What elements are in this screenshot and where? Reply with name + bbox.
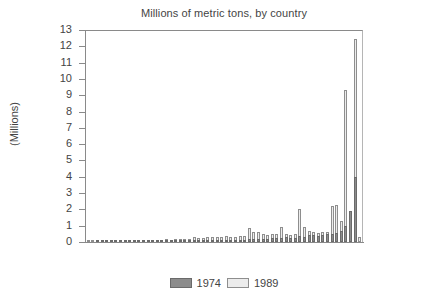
bar-1974 xyxy=(354,177,357,242)
bar-1974 xyxy=(344,226,347,242)
bar-group xyxy=(357,31,362,242)
bar-1974 xyxy=(220,240,223,242)
bar-series-container xyxy=(86,31,362,242)
y-axis-tick: 13 xyxy=(0,30,85,31)
bar-1974 xyxy=(206,240,209,242)
bar-1974 xyxy=(110,240,113,242)
y-axis-tick-label: 9 xyxy=(66,88,72,101)
bar-1974 xyxy=(340,231,343,242)
bar-1974 xyxy=(193,240,196,242)
y-axis-tick: 1 xyxy=(0,226,85,227)
bar-1974 xyxy=(326,234,329,242)
bar-1974 xyxy=(225,240,228,242)
bar-1974 xyxy=(271,238,274,242)
bar-1974 xyxy=(294,238,297,242)
y-axis-tick-label: 13 xyxy=(60,23,72,36)
bar-1974 xyxy=(105,240,108,242)
y-axis-tick: 0 xyxy=(0,242,85,243)
y-axis-label: (Millions) xyxy=(8,74,20,174)
bar-1974 xyxy=(308,235,311,242)
bar-1974 xyxy=(303,237,306,242)
bar-1974 xyxy=(165,240,168,242)
y-axis-tick: 3 xyxy=(0,193,85,194)
bar-1974 xyxy=(142,240,145,242)
y-axis-tick: 4 xyxy=(0,177,85,178)
bar-1974 xyxy=(101,240,104,242)
bar-1974 xyxy=(257,239,260,242)
bar-1974 xyxy=(156,240,159,242)
bar-1989 xyxy=(87,240,90,242)
bar-1974 xyxy=(147,240,150,242)
bar-1974 xyxy=(183,240,186,242)
y-axis-tick-label: 4 xyxy=(66,170,72,183)
y-axis-tick: 6 xyxy=(0,144,85,145)
bar-1974 xyxy=(202,240,205,242)
bar-1974 xyxy=(114,240,117,242)
legend-entry-1989: 1989 xyxy=(227,277,278,289)
chart-legend: 1974 1989 xyxy=(85,277,363,289)
y-axis-tick-label: 2 xyxy=(66,202,72,215)
bar-1974 xyxy=(262,239,265,242)
bar-1974 xyxy=(124,240,127,242)
bar-1974 xyxy=(275,238,278,242)
legend-entry-1974: 1974 xyxy=(170,277,221,289)
chart-title: Millions of metric tons, by country xyxy=(85,7,363,19)
bar-1974 xyxy=(216,240,219,242)
y-axis-tick: 11 xyxy=(0,63,85,64)
bar-1974 xyxy=(188,240,191,242)
y-axis-tick-label: 12 xyxy=(60,39,72,52)
y-axis-tick: 8 xyxy=(0,112,85,113)
legend-swatch-1989 xyxy=(227,278,249,288)
bar-1974 xyxy=(234,240,237,242)
bar-1974 xyxy=(211,240,214,242)
bar-1974 xyxy=(133,240,136,242)
y-axis-tick-label: 8 xyxy=(66,105,72,118)
y-axis-tick-label: 11 xyxy=(61,56,72,69)
x-axis-line xyxy=(85,242,364,243)
bar-1974 xyxy=(160,240,163,242)
bar-1974 xyxy=(252,239,255,242)
legend-swatch-1974 xyxy=(170,278,192,288)
bar-1974 xyxy=(321,235,324,242)
bar-1989 xyxy=(344,90,347,242)
y-axis-tick: 7 xyxy=(0,128,85,129)
legend-label-1974: 1974 xyxy=(197,277,221,289)
chart-figure: Millions of metric tons, by country (Mil… xyxy=(0,0,423,308)
y-axis-tick: 5 xyxy=(0,160,85,161)
y-axis-tick: 10 xyxy=(0,79,85,80)
bar-1974 xyxy=(331,234,334,242)
y-axis-tick-label: 1 xyxy=(66,219,72,232)
bar-1974 xyxy=(280,238,283,242)
legend-label-1989: 1989 xyxy=(254,277,278,289)
bar-1974 xyxy=(179,240,182,242)
bar-1974 xyxy=(96,240,99,242)
bar-1974 xyxy=(229,240,232,242)
y-axis-tick-label: 5 xyxy=(66,153,72,166)
y-axis-tick-label: 0 xyxy=(66,235,72,248)
y-axis-tick-label: 7 xyxy=(66,121,72,134)
bar-1974 xyxy=(248,239,251,242)
bar-1974 xyxy=(239,240,242,242)
y-axis-tick-label: 10 xyxy=(60,72,72,85)
bar-1974 xyxy=(128,240,131,242)
bar-1974 xyxy=(137,240,140,242)
y-axis-tick: 2 xyxy=(0,209,85,210)
bar-1974 xyxy=(151,240,154,242)
bar-1974 xyxy=(312,235,315,242)
bar-1989 xyxy=(358,237,361,242)
bar-1974 xyxy=(119,240,122,242)
bar-1974 xyxy=(317,236,320,242)
bar-1974 xyxy=(197,240,200,242)
y-axis-tick-label: 3 xyxy=(66,186,72,199)
bar-1974 xyxy=(285,237,288,242)
bar-1974 xyxy=(298,236,301,242)
y-axis-tick: 9 xyxy=(0,95,85,96)
bar-1974 xyxy=(335,233,338,242)
bar-1974 xyxy=(349,211,352,242)
y-axis-tick-label: 6 xyxy=(66,137,72,150)
bar-1974 xyxy=(170,240,173,242)
y-axis-tick: 12 xyxy=(0,46,85,47)
bar-1974 xyxy=(174,240,177,242)
bar-1974 xyxy=(289,238,292,242)
bar-1989 xyxy=(91,240,94,242)
